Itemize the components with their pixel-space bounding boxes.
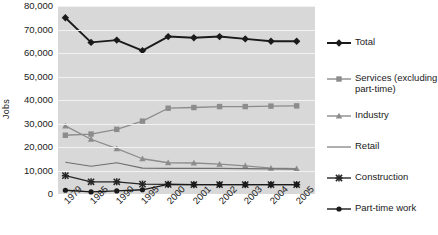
x-axis-tick: 1985	[88, 184, 110, 206]
x-axis-tick: 2004	[268, 184, 290, 206]
x-axis-tick: 2003	[242, 184, 264, 206]
legend-item-6[interactable]: Part-time work	[326, 202, 416, 215]
legend-label: Construction	[352, 171, 408, 182]
legend-swatch-triangle-icon	[326, 110, 352, 122]
x-axis-tick: 2005	[294, 184, 316, 206]
legend-label: Services (excluding part-time)	[352, 72, 437, 94]
legend-swatch-none-icon	[326, 141, 352, 153]
legend-item-3[interactable]: Industry	[326, 109, 389, 122]
data-point-marker	[335, 174, 342, 181]
legend-label: Industry	[352, 109, 389, 120]
x-axis-tick: 2002	[217, 184, 239, 206]
legend-item-1[interactable]: Total	[326, 36, 375, 49]
x-axis-tick: 2000	[165, 184, 187, 206]
legend-item-2[interactable]: Services (excluding part-time)	[326, 72, 437, 94]
legend-swatch-circle-icon	[326, 203, 352, 215]
legend-swatch-x-icon	[326, 172, 352, 184]
legend-label: Retail	[352, 140, 379, 151]
data-point-marker	[335, 39, 342, 46]
data-point-marker	[336, 206, 341, 211]
legend-swatch-diamond-icon	[326, 37, 352, 49]
x-axis-tick: 1995	[139, 184, 161, 206]
legend-label: Total	[352, 36, 375, 47]
x-axis-tick: 2001	[191, 184, 213, 206]
jobs-line-chart: Jobs 80,00070,00060,00050,00040,00030,00…	[0, 0, 438, 235]
legend-item-5[interactable]: Construction	[326, 171, 408, 184]
legend-item-4[interactable]: Retail	[326, 140, 379, 153]
legend-label: Part-time work	[352, 202, 416, 213]
x-axis-tick: 1979	[62, 184, 84, 206]
legend-swatch-square-icon	[326, 73, 352, 85]
x-axis-tick: 1990	[114, 184, 136, 206]
data-point-marker	[336, 76, 341, 81]
